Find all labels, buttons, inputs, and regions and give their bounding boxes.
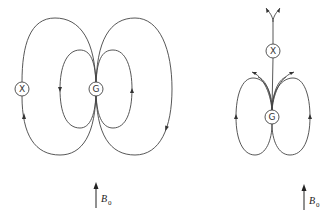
node-g-label: G [269, 112, 276, 122]
left-field-diagram: X G B 0 [15, 18, 172, 208]
node-x: X [266, 44, 280, 58]
node-g: G [89, 82, 103, 96]
arrow-icon [58, 87, 62, 92]
arrow-icon [277, 8, 280, 13]
outer-right-loop [96, 18, 172, 155]
b0-subscript: 0 [316, 201, 320, 209]
node-g: G [265, 110, 279, 124]
node-g-label: G [93, 84, 100, 94]
arrow-icon [308, 114, 312, 119]
node-x-label: X [19, 84, 25, 94]
b0-symbol: B [101, 193, 107, 204]
arrow-icon [163, 125, 168, 131]
outer-left-loop-lower [22, 89, 96, 155]
arrow-icon [234, 114, 238, 119]
b0-symbol: B [309, 195, 315, 206]
arrow-icon [130, 88, 134, 93]
b0-arrowhead-icon [302, 184, 307, 191]
b0-arrowhead-icon [94, 182, 99, 189]
node-x: X [15, 82, 29, 96]
right-field-diagram: X G B 0 [234, 8, 320, 210]
outer-left-loop [22, 18, 96, 89]
node-x-label: X [270, 46, 276, 56]
fan-right-inner [272, 77, 286, 110]
diagram-canvas: X G B 0 X [0, 0, 330, 220]
b0-subscript: 0 [108, 199, 112, 207]
